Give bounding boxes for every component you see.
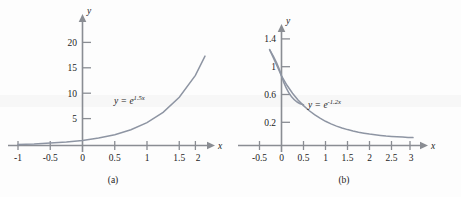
y-tick-label-a-1: 10 [68, 89, 78, 99]
x-tick-label-a-6: 2 [196, 153, 201, 163]
x-tick-label-a-5: 1.5 [173, 153, 185, 163]
x-axis-label-b: x [430, 141, 436, 151]
x-tick-label-b-6: 2.5 [386, 153, 398, 163]
panel-a: -1 -0.5 0 0.5 1 1.5 2 5 10 15 20 x y y =… [0, 0, 230, 197]
equation-label-a: y = e1.5x [113, 94, 145, 106]
x-axis-label-a: x [217, 141, 223, 151]
x-tick-label-a-0: -1 [14, 153, 22, 163]
y-tick-label-b-1: 0.6 [264, 90, 276, 100]
y-tick-label-b-0: 0.2 [264, 118, 276, 128]
x-tick-label-a-2: 0 [80, 153, 85, 163]
x-tick-label-b-0: -0.5 [252, 153, 267, 163]
x-axis-arrowhead-b [420, 142, 428, 150]
y-tick-label-a-0: 5 [72, 114, 77, 124]
y-tick-label-b-2: 1 [271, 62, 276, 72]
x-tick-label-a-1: -0.5 [43, 153, 58, 163]
x-tick-label-b-5: 2 [367, 153, 372, 163]
x-tick-label-a-3: 0.5 [109, 153, 121, 163]
y-tick-label-a-3: 20 [68, 38, 78, 48]
x-axis-arrowhead-a [207, 142, 215, 150]
curve-a [18, 56, 205, 144]
equation-lhs-b: y = e [307, 100, 328, 110]
y-tick-label-a-2: 15 [68, 63, 78, 73]
x-tick-label-b-4: 1.5 [342, 153, 354, 163]
x-tick-label-b-2: 0.5 [298, 153, 310, 163]
chart-a-svg: -1 -0.5 0 0.5 1 1.5 2 5 10 15 20 x y y =… [0, 0, 230, 197]
equation-exponent-b: -1.2x [328, 98, 341, 105]
equation-lhs-a: y = e [113, 96, 134, 106]
equation-label-b: y = e-1.2x [307, 98, 341, 110]
x-tick-label-a-4: 1 [145, 153, 150, 163]
x-tick-label-b-1: 0 [279, 153, 284, 163]
y-axis-label-b: y [285, 16, 291, 26]
x-tick-label-b-3: 1 [323, 153, 328, 163]
caption-b: (b) [338, 175, 349, 186]
equation-exponent-a: 1.5x [134, 94, 145, 101]
exponential-functions-figure: -1 -0.5 0 0.5 1 1.5 2 5 10 15 20 x y y =… [0, 0, 461, 197]
caption-a: (a) [108, 175, 119, 186]
y-axis-label-a: y [86, 6, 92, 16]
curve-b-main [270, 50, 413, 138]
x-tick-label-b-7: 3 [409, 153, 414, 163]
y-tick-label-b-3: 1.4 [264, 34, 276, 44]
panel-b: -0.5 0 0.5 1 1.5 2 2.5 3 0.2 0.6 1 1.4 x… [230, 0, 461, 197]
chart-b-svg: -0.5 0 0.5 1 1.5 2 2.5 3 0.2 0.6 1 1.4 x… [230, 0, 461, 197]
y-axis-arrowhead-b [278, 24, 286, 32]
y-axis-arrowhead-a [79, 14, 87, 22]
